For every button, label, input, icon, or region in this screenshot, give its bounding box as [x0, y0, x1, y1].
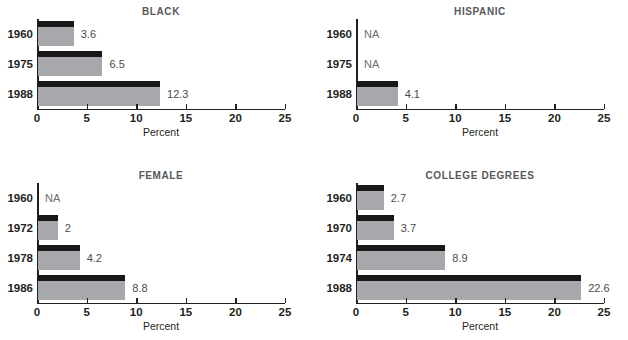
- x-tick: [554, 104, 555, 109]
- bar-cap: [357, 215, 394, 221]
- bar-row: 19602.7: [356, 183, 604, 213]
- bar-cap: [38, 81, 160, 87]
- x-tick-label: 20: [229, 112, 242, 124]
- x-axis: 0510152025Percent: [356, 303, 604, 329]
- x-tick-label: 15: [498, 306, 511, 318]
- x-tick: [455, 104, 456, 109]
- year-label: 1988: [292, 273, 352, 303]
- bar-row: 198812.3: [37, 79, 285, 109]
- x-axis-rule: [356, 109, 604, 110]
- x-tick-label: 25: [279, 112, 292, 124]
- year-label: 1972: [0, 213, 33, 243]
- x-tick: [604, 104, 605, 109]
- bar-cap: [357, 81, 398, 87]
- chart-title: COLLEGE DEGREES: [356, 170, 604, 181]
- bar-wrapper: [38, 245, 80, 270]
- x-tick: [285, 298, 286, 303]
- bar: [357, 81, 398, 106]
- x-tick: [356, 298, 357, 303]
- chart-title: FEMALE: [37, 170, 285, 181]
- bar-row: 1960NA: [37, 183, 285, 213]
- bar-wrapper: [38, 21, 74, 46]
- bar-wrapper: [38, 275, 125, 300]
- x-tick: [235, 104, 236, 109]
- x-tick-label: 25: [598, 112, 611, 124]
- x-tick: [285, 104, 286, 109]
- na-label: NA: [45, 183, 60, 213]
- x-tick-label: 10: [130, 112, 143, 124]
- value-label: 2.7: [391, 183, 406, 213]
- bar: [38, 245, 80, 270]
- x-tick: [356, 104, 357, 109]
- x-tick-label: 0: [34, 112, 40, 124]
- x-tick-label: 0: [34, 306, 40, 318]
- bar-row: 19868.8: [37, 273, 285, 303]
- x-tick-label: 20: [229, 306, 242, 318]
- value-label: 2: [65, 213, 71, 243]
- x-axis-rule: [356, 303, 604, 304]
- bar-cap: [38, 51, 102, 57]
- chart-title: BLACK: [37, 6, 285, 17]
- bar-wrapper: [357, 185, 384, 210]
- x-tick: [406, 104, 407, 109]
- x-tick-label: 15: [179, 112, 192, 124]
- x-axis-title: Percent: [37, 126, 285, 138]
- na-label: NA: [364, 49, 379, 79]
- year-label: 1988: [0, 79, 33, 109]
- x-axis: 0510152025Percent: [37, 303, 285, 329]
- bar: [357, 185, 384, 210]
- bar-cap: [357, 245, 445, 251]
- x-tick-label: 10: [449, 306, 462, 318]
- x-axis-rule: [37, 109, 285, 110]
- x-tick-label: 5: [402, 112, 408, 124]
- x-tick: [87, 298, 88, 303]
- bar-rows: 19602.719703.719748.9198822.6: [356, 183, 604, 303]
- bar-rows: 19603.619756.5198812.3: [37, 19, 285, 109]
- x-axis: 0510152025Percent: [37, 109, 285, 135]
- bar-wrapper: [38, 215, 58, 240]
- year-label: 1960: [0, 183, 33, 213]
- value-label: 3.7: [401, 213, 416, 243]
- x-tick: [186, 104, 187, 109]
- bar: [357, 245, 445, 270]
- bar-wrapper: [38, 51, 102, 76]
- x-tick: [37, 104, 38, 109]
- x-tick: [604, 298, 605, 303]
- x-axis-title: Percent: [37, 320, 285, 332]
- value-label: 8.8: [132, 273, 147, 303]
- value-label: 4.2: [87, 243, 102, 273]
- bar-wrapper: [357, 81, 398, 106]
- year-label: 1986: [0, 273, 33, 303]
- bar: [38, 275, 125, 300]
- bar-row: 1975NA: [356, 49, 604, 79]
- bar-rows: 1960NA1972219784.219868.8: [37, 183, 285, 303]
- x-tick-label: 0: [353, 112, 359, 124]
- x-tick: [554, 298, 555, 303]
- bar-cap: [38, 245, 80, 251]
- x-axis: 0510152025Percent: [356, 109, 604, 135]
- bar-row: 19884.1: [356, 79, 604, 109]
- bar: [38, 215, 58, 240]
- x-tick-label: 25: [279, 306, 292, 318]
- value-label: 6.5: [109, 49, 124, 79]
- x-tick-label: 25: [598, 306, 611, 318]
- chart-panel-0: BLACK19603.619756.5198812.30510152025Per…: [0, 2, 314, 162]
- bar-row: 19722: [37, 213, 285, 243]
- x-axis-title: Percent: [356, 320, 604, 332]
- bar-row: 19603.6: [37, 19, 285, 49]
- bar-row: 198822.6: [356, 273, 604, 303]
- year-label: 1978: [0, 243, 33, 273]
- year-label: 1974: [292, 243, 352, 273]
- x-tick-label: 0: [353, 306, 359, 318]
- x-tick: [87, 104, 88, 109]
- x-tick: [235, 298, 236, 303]
- year-label: 1960: [0, 19, 33, 49]
- year-label: 1975: [292, 49, 352, 79]
- year-label: 1970: [292, 213, 352, 243]
- chart-panel-2: FEMALE1960NA1972219784.219868.8051015202…: [0, 166, 314, 326]
- bar-cap: [38, 275, 125, 281]
- x-tick: [455, 298, 456, 303]
- bar-cap: [357, 275, 581, 281]
- na-label: NA: [364, 19, 379, 49]
- x-tick-label: 20: [548, 306, 561, 318]
